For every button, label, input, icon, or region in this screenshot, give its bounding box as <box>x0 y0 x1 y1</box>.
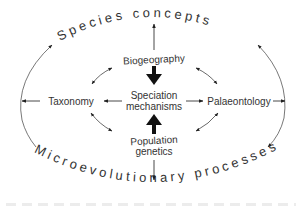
node-biogeography: Biogeography <box>123 52 185 66</box>
faint-caption-fragment <box>6 203 296 206</box>
diagram-canvas: Species concepts Microevolutionary proce… <box>0 0 302 212</box>
taxonomy-population-arrow <box>91 113 112 131</box>
biogeography-palaeontology-arrow <box>196 68 217 84</box>
biogeography-taxonomy-arrow <box>92 68 112 84</box>
species-concepts-label: Species concepts <box>55 5 215 44</box>
center-speciation: Speciation <box>131 90 178 101</box>
node-genetics: genetics <box>135 146 172 157</box>
node-palaeontology: Palaeontology <box>207 96 270 107</box>
center-mechanisms: mechanisms <box>126 101 182 112</box>
bold-arrow-down <box>146 66 162 85</box>
palaeontology-population-arrow <box>196 113 218 131</box>
node-taxonomy: Taxonomy <box>48 96 94 107</box>
bold-arrow-up <box>146 114 162 134</box>
